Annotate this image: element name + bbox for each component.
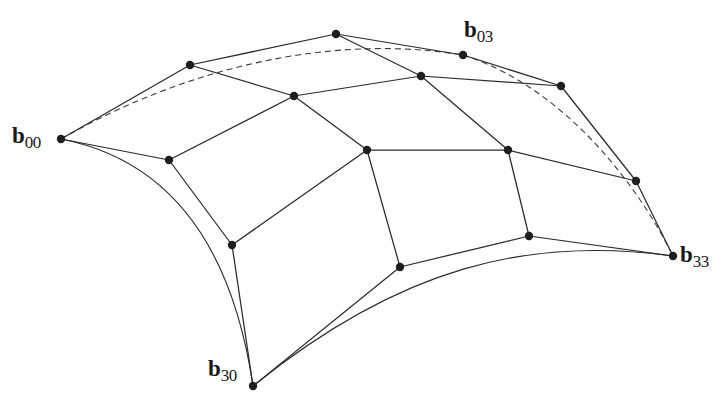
net-row-2 bbox=[232, 150, 636, 245]
net-col-3 bbox=[463, 55, 673, 256]
control-net bbox=[61, 34, 673, 386]
control-point-b12 bbox=[417, 72, 425, 80]
control-point-b32 bbox=[525, 232, 533, 240]
label-subscript: 00 bbox=[25, 133, 41, 152]
label-base: b bbox=[680, 242, 693, 267]
control-point-b01 bbox=[186, 61, 194, 69]
control-point-b20 bbox=[228, 241, 236, 249]
net-row-3 bbox=[253, 236, 673, 386]
label-b30: b30 bbox=[208, 357, 237, 380]
control-point-b30 bbox=[249, 382, 257, 390]
control-point-b02 bbox=[332, 30, 340, 38]
control-point-b23 bbox=[632, 177, 640, 185]
label-base: b bbox=[12, 123, 25, 148]
label-subscript: 30 bbox=[221, 366, 237, 385]
label-b00: b00 bbox=[12, 124, 41, 147]
boundary-curve-top bbox=[61, 49, 463, 139]
bezier-patch-diagram bbox=[0, 0, 714, 402]
control-point-b10 bbox=[165, 156, 173, 164]
control-point-b03 bbox=[459, 51, 467, 59]
label-base: b bbox=[464, 17, 477, 42]
boundary-curves bbox=[61, 139, 673, 386]
control-points bbox=[57, 30, 677, 390]
control-point-b13 bbox=[557, 82, 565, 90]
control-point-b00 bbox=[57, 135, 65, 143]
control-point-b31 bbox=[396, 263, 404, 271]
label-b33: b33 bbox=[680, 243, 709, 266]
label-base: b bbox=[208, 356, 221, 381]
control-point-b33 bbox=[669, 252, 677, 260]
boundary-curve-bottom bbox=[253, 250, 673, 386]
control-point-b22 bbox=[504, 146, 512, 154]
net-col-0 bbox=[61, 139, 253, 386]
label-subscript: 03 bbox=[477, 27, 493, 46]
boundary-curve-left bbox=[61, 139, 253, 386]
control-point-b11 bbox=[290, 92, 298, 100]
boundary-curve-right bbox=[463, 55, 673, 256]
net-col-2 bbox=[336, 34, 529, 236]
label-subscript: 33 bbox=[693, 252, 709, 271]
label-b03: b03 bbox=[464, 18, 493, 41]
control-point-b21 bbox=[363, 146, 371, 154]
